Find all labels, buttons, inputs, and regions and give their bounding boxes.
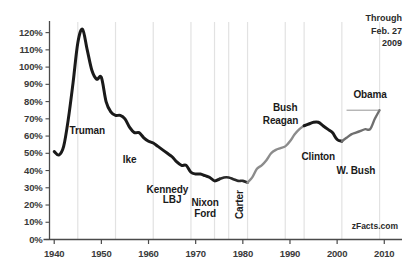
annotation-truman: Truman (69, 125, 105, 136)
x-axis-tick-1970: 1970 (176, 248, 216, 259)
annotation-lbj: LBJ (163, 194, 182, 205)
annotation-carter: Carter (234, 190, 245, 219)
x-axis-tick-2000: 2000 (317, 248, 357, 259)
annotation-obama: Obama (353, 89, 386, 100)
y-axis-tick-120pct: 120% (19, 27, 43, 38)
chart-plot-area (0, 0, 410, 278)
note-line-1: Through (366, 12, 403, 25)
annotation-nixon: Nixon (191, 197, 218, 208)
y-axis-tick-70pct: 70% (24, 113, 42, 124)
note-line-3: 2009 (366, 37, 403, 50)
x-axis-tick-2010: 2010 (364, 248, 404, 259)
y-axis-tick-10pct: 10% (24, 216, 42, 227)
gridlines (78, 22, 380, 240)
debt-to-gdp-chart: 120%110%100%90%80%70%60%50%40%30%20%10%0… (0, 0, 410, 278)
y-axis-tick-110pct: 110% (20, 44, 43, 55)
annotation-reagan: Reagan (263, 115, 299, 126)
y-axis-tick-40pct: 40% (24, 165, 42, 176)
annotation-ike: Ike (123, 154, 137, 165)
y-axis-tick-50pct: 50% (24, 147, 42, 158)
y-axis-tick-20pct: 20% (24, 199, 42, 210)
y-axis-tick-100pct: 100% (19, 61, 43, 72)
x-axis-tick-1940: 1940 (34, 248, 74, 259)
note-line-2: Feb. 27 (366, 25, 403, 38)
x-axis-tick-1960: 1960 (129, 248, 169, 259)
annotation-kennedy: Kennedy (147, 184, 189, 195)
y-axis-tick-0pct: 0% (29, 234, 42, 245)
x-axis-tick-1950: 1950 (81, 248, 121, 259)
annotation-bush: Bush (273, 102, 298, 113)
y-axis-tick-80pct: 80% (24, 96, 42, 107)
annotation-w-bush: W. Bush (337, 165, 376, 176)
zfacts-watermark: zFacts.com (352, 221, 398, 231)
annotation-clinton: Clinton (301, 151, 335, 162)
x-axis-tick-1980: 1980 (223, 248, 263, 259)
y-axis-tick-60pct: 60% (24, 130, 42, 141)
x-axis-tick-1990: 1990 (270, 248, 310, 259)
through-date-note: Through Feb. 27 2009 (366, 12, 403, 50)
y-axis-tick-90pct: 90% (24, 78, 42, 89)
annotation-ford: Ford (194, 208, 216, 219)
y-axis-tick-30pct: 30% (24, 182, 42, 193)
